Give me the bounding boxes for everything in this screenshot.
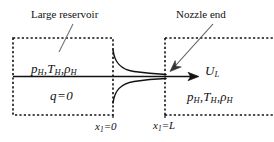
leader-arrow-line: [176, 24, 213, 65]
axis-origin-value: 0: [111, 120, 117, 132]
callout-nozzle-end: Nozzle end: [176, 9, 226, 20]
axis-end-value: L: [169, 119, 175, 131]
leader-arrow-icon: [170, 61, 181, 72]
axis-station-origin: x1=0: [95, 121, 117, 133]
reservoir-pressure-subscript: H: [38, 67, 44, 77]
exit-velocity-symbol: U: [205, 63, 214, 78]
exit-temperature-subscript: H: [210, 95, 216, 105]
reservoir-temperature-subscript: H: [54, 67, 60, 77]
callout-large-reservoir: Large reservoir: [31, 9, 98, 20]
streamline-upper: [113, 50, 166, 74]
exit-density-subscript: H: [226, 95, 232, 105]
axis-station-end: x1=L: [153, 120, 175, 132]
reservoir-density-subscript: H: [70, 67, 76, 77]
heat-flux-value: 0: [66, 88, 73, 103]
reservoir-heat-flux-condition: q=0: [50, 89, 73, 102]
exit-state-variables: pH,TH,ρH: [187, 90, 233, 105]
reservoir-state-variables: pH,TH,ρH: [31, 62, 77, 77]
heat-flux-equals: =: [57, 88, 67, 103]
axis-end-equals: =: [162, 119, 169, 131]
heat-flux-symbol: q: [50, 88, 57, 103]
axis-origin-equals: =: [104, 120, 111, 132]
exit-pressure-subscript: H: [194, 95, 200, 105]
streamline-lower: [113, 79, 166, 103]
nozzle-flow-diagram: Large reservoir Nozzle end pH,TH,ρH q=0 …: [0, 0, 274, 142]
exit-velocity-label: UL: [205, 64, 219, 79]
exit-velocity-subscript: L: [214, 69, 219, 79]
